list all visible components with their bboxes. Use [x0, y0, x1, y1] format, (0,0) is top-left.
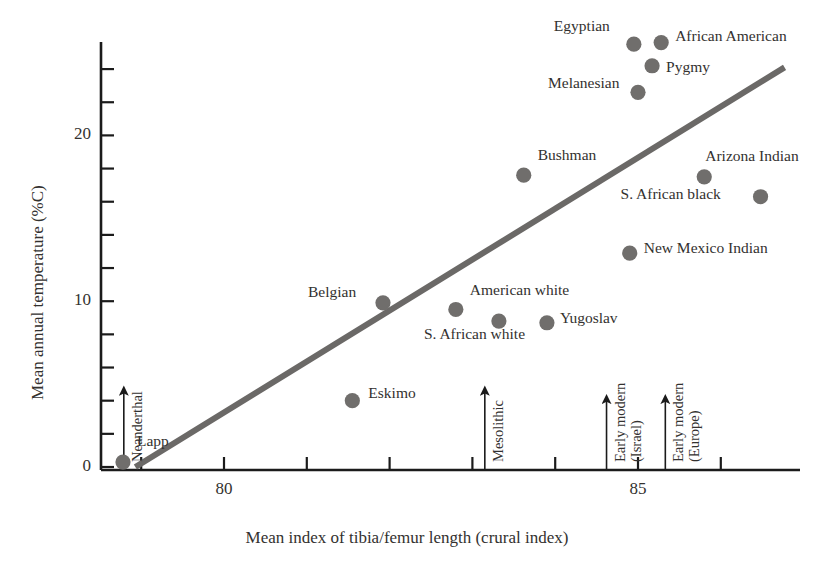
point-label: S. African black: [621, 186, 721, 202]
annotation-label: Early modern(Europe): [670, 383, 702, 462]
y-tick-label: 10: [74, 290, 91, 310]
x-tick-label: 80: [216, 479, 233, 499]
data-point: [753, 189, 768, 204]
point-label: Lapp: [137, 433, 169, 449]
data-point: [626, 37, 641, 52]
point-label: Egyptian: [554, 18, 610, 34]
annotation-label-line1: Early modern: [670, 383, 686, 462]
data-point: [644, 58, 659, 73]
data-point: [539, 315, 554, 330]
y-axis-title: Mean annual temperature (%C): [28, 185, 48, 400]
annotation-label: Mesolithic: [490, 400, 507, 462]
data-point: [516, 168, 531, 183]
point-label: African American: [675, 28, 786, 44]
data-point: [375, 295, 390, 310]
point-label: Belgian: [308, 284, 356, 300]
scatter-chart: 010208085NeanderthalMesolithicEarly mode…: [0, 0, 814, 570]
annotation-label-line2: (Israel): [628, 420, 644, 462]
data-point: [697, 169, 712, 184]
x-tick-label: 85: [630, 479, 647, 499]
data-point: [630, 85, 645, 100]
y-tick-label: 0: [83, 456, 92, 476]
y-tick-label: 20: [74, 124, 91, 144]
point-label: New Mexico Indian: [644, 240, 768, 256]
x-axis-title: Mean index of tibia/femur length (crural…: [246, 528, 569, 548]
point-label: Pygmy: [666, 59, 710, 75]
annotation-label: Neanderthal: [129, 391, 146, 462]
data-point: [622, 246, 637, 261]
point-label: Eskimo: [368, 385, 415, 401]
annotation-label-line2: (Europe): [687, 410, 703, 462]
point-label: Bushman: [538, 147, 597, 163]
annotation-label: Early modern(Israel): [612, 383, 644, 462]
point-label: American white: [470, 282, 569, 298]
plot-canvas: [0, 0, 814, 570]
point-label: Melanesian: [548, 75, 619, 91]
annotation-label-line1: Early modern: [612, 383, 628, 462]
point-label: Yugoslav: [560, 310, 618, 326]
point-label: Arizona Indian: [705, 148, 798, 164]
arrow-annotations: [124, 391, 666, 470]
data-point: [448, 302, 463, 317]
data-point: [345, 393, 360, 408]
point-label: S. African white: [424, 326, 525, 342]
data-point: [654, 35, 669, 50]
